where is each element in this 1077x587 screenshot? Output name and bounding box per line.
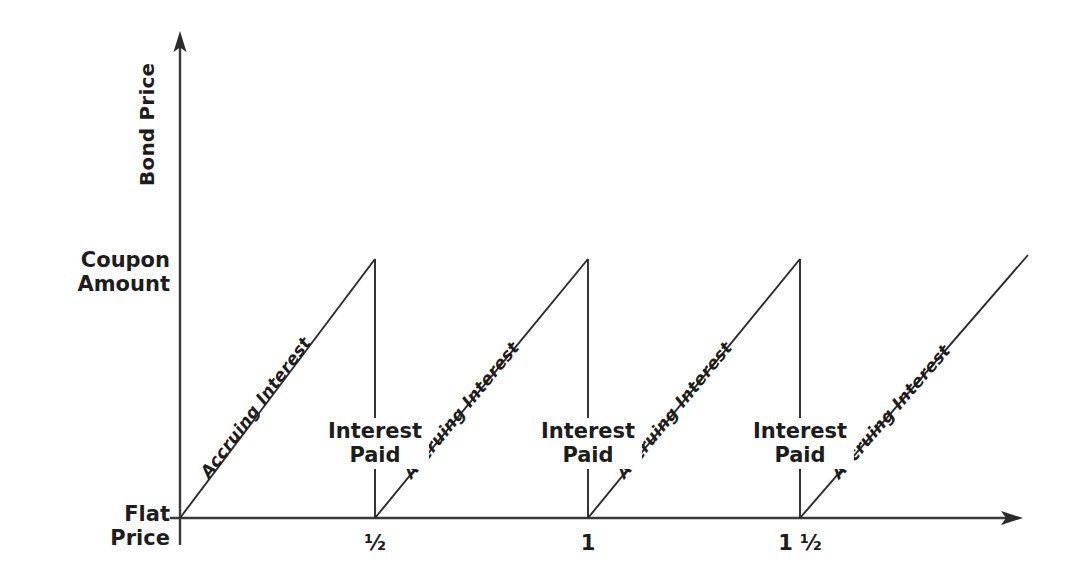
y-tick-flat-line1: Flat	[44, 502, 170, 526]
interest-paid-3-line1: Interest	[753, 419, 847, 443]
y-tick-coupon-line2: Amount	[44, 272, 170, 296]
x-tick-label-half: ½	[364, 531, 386, 555]
x-tick-label-one-and-half: 1 ½	[778, 531, 822, 555]
interest-paid-1-line1: Interest	[328, 419, 422, 443]
y-tick-label-coupon-amount: Coupon Amount	[44, 248, 170, 297]
interest-paid-2-line2: Paid	[541, 443, 635, 467]
interest-paid-2-line1: Interest	[541, 419, 635, 443]
bond-price-accrual-diagram: Bond Price Coupon Amount Flat Price ½ 1 …	[0, 0, 1077, 587]
y-tick-flat-line2: Price	[44, 526, 170, 550]
y-tick-coupon-line1: Coupon	[44, 248, 170, 272]
x-tick-label-one: 1	[581, 531, 596, 555]
y-axis-title: Bond Price	[136, 63, 159, 186]
interest-paid-label-3: Interest Paid	[746, 418, 854, 469]
interest-paid-label-1: Interest Paid	[321, 418, 429, 469]
interest-paid-1-line2: Paid	[328, 443, 422, 467]
interest-paid-label-2: Interest Paid	[534, 418, 642, 469]
interest-paid-3-line2: Paid	[753, 443, 847, 467]
y-tick-label-flat-price: Flat Price	[44, 502, 170, 551]
